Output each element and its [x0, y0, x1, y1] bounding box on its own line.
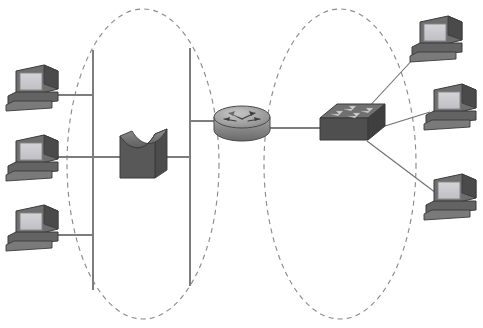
node-pc-left-top[interactable]: [6, 65, 58, 111]
node-bridge[interactable]: [120, 129, 167, 178]
pc-icon: [6, 205, 58, 251]
pc-icon: [410, 16, 462, 62]
node-pc-left-middle[interactable]: [6, 135, 58, 181]
right-segment-boundary: [264, 9, 416, 319]
switch-icon: [320, 104, 385, 140]
network-diagram-canvas: [0, 0, 483, 328]
node-pc-right-middle[interactable]: [424, 84, 476, 130]
node-pc-left-bottom[interactable]: [6, 205, 58, 251]
link-switch-pc-right-middle: [385, 112, 430, 126]
link-switch-pc-right-top: [366, 56, 416, 110]
link-switch-pc-right-bottom: [367, 141, 440, 196]
node-pc-right-top[interactable]: [410, 16, 462, 62]
pc-icon: [6, 65, 58, 111]
pc-icon: [424, 174, 476, 220]
router-icon: [214, 106, 270, 141]
node-switch[interactable]: [320, 104, 385, 140]
segment-boundaries: [67, 9, 416, 319]
pc-icon: [424, 84, 476, 130]
pc-icon: [6, 135, 58, 181]
bridge-icon: [120, 129, 167, 178]
node-pc-right-bottom[interactable]: [424, 174, 476, 220]
node-router[interactable]: [214, 106, 270, 141]
network-diagram: [0, 0, 483, 328]
